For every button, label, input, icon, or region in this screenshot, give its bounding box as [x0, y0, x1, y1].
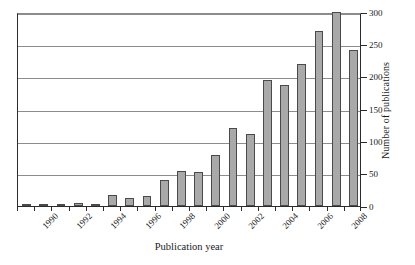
y-tick-100	[361, 142, 367, 143]
bar-2003	[246, 134, 255, 206]
publication-year-bar-chart: 050100150200250300 Number of publication…	[0, 0, 415, 265]
bars-layer	[18, 14, 360, 206]
bar-2004	[263, 80, 272, 206]
bar-2007	[315, 31, 324, 206]
x-axis-title: Publication year	[17, 241, 361, 252]
y-tick-0	[361, 207, 367, 208]
y-axis-title: Number of publications	[379, 13, 393, 207]
bar-1990	[22, 204, 31, 206]
bar-2009	[349, 50, 358, 206]
bar-1996	[125, 198, 134, 206]
y-tick-label-0: 0	[369, 203, 374, 212]
bar-1995	[108, 195, 117, 206]
bar-1992	[57, 204, 66, 206]
bar-2001	[211, 155, 220, 206]
x-tick-label-2002: 2002	[246, 211, 266, 231]
x-tick-label-1994: 1994	[109, 211, 129, 231]
x-tick-label-1996: 1996	[143, 211, 163, 231]
bar-1999	[177, 171, 186, 206]
bar-2008	[332, 12, 341, 206]
plot-area	[17, 13, 361, 207]
x-tick-label-2008: 2008	[349, 211, 369, 231]
y-tick-label-50: 50	[369, 170, 378, 179]
bar-2002	[229, 128, 238, 206]
y-tick-300	[361, 13, 367, 14]
y-axis-title-label: Number of publications	[381, 61, 392, 158]
bar-2005	[280, 85, 289, 206]
y-tick-50	[361, 174, 367, 175]
x-tick-label-1990: 1990	[40, 211, 60, 231]
bar-2000	[194, 172, 203, 206]
bar-1998	[160, 180, 169, 206]
x-tick-label-1992: 1992	[74, 211, 94, 231]
x-tick-label-2000: 2000	[212, 211, 232, 231]
x-axis-tick-labels: 1990199219941996199820002002200420062008	[17, 211, 361, 241]
y-tick-250	[361, 45, 367, 46]
y-tick-200	[361, 77, 367, 78]
x-tick-label-1998: 1998	[177, 211, 197, 231]
bar-1997	[143, 196, 152, 206]
bar-1994	[91, 204, 100, 206]
y-tick-150	[361, 110, 367, 111]
x-tick-label-2006: 2006	[315, 211, 335, 231]
bar-1993	[74, 203, 83, 206]
bar-2006	[297, 64, 306, 206]
x-tick-label-2004: 2004	[281, 211, 301, 231]
bar-1991	[39, 204, 48, 206]
